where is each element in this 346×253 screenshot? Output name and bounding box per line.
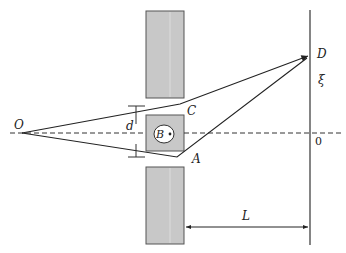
label-l: L [241, 209, 250, 223]
label-source-o: O [14, 118, 24, 132]
label-flux-b: B [155, 128, 164, 141]
label-slit-a: A [191, 152, 201, 166]
label-origin-zero: 0 [315, 135, 322, 148]
label-slit-c: C [187, 104, 196, 118]
label-point-d: D [316, 47, 327, 61]
diagram-canvas: O C A B D ξ 0 d L [0, 0, 346, 253]
label-xi: ξ [318, 73, 326, 87]
barrier-top [146, 11, 184, 98]
label-d: d [126, 119, 134, 133]
barrier-bottom [146, 167, 184, 244]
